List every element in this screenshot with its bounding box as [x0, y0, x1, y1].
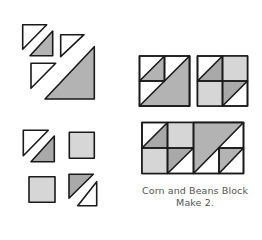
white-triangle-top-right — [61, 35, 84, 57]
step2-pieces — [23, 130, 96, 205]
light-gray-square-b — [29, 177, 55, 203]
unit-b-four-patch — [198, 56, 248, 106]
caption-title: Corn and Beans Block — [138, 185, 252, 197]
step1-pieces — [23, 25, 95, 99]
completed-block — [142, 123, 244, 174]
light-gray-square-a — [69, 132, 94, 158]
caption-instruction: Make 2. — [138, 197, 252, 209]
unit-a-large-triangle — [140, 56, 190, 106]
white-triangle-lower-left — [31, 63, 56, 88]
